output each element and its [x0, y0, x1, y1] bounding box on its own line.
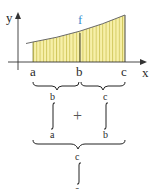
brace-a-b	[33, 82, 79, 90]
point-c-label: c	[121, 64, 127, 79]
integral-combined-upper: c	[75, 151, 80, 162]
integral-right-lower: b	[103, 129, 108, 140]
plus-operator: +	[73, 107, 82, 124]
integral-left-lower: a	[50, 129, 55, 140]
y-axis-label: y	[6, 10, 13, 25]
point-b-label: b	[76, 64, 83, 79]
integral-left-icon	[51, 103, 55, 130]
brace-combined	[33, 140, 125, 149]
integral-left-upper: b	[50, 91, 55, 102]
y-axis-arrow-icon	[15, 12, 21, 19]
point-a-label: a	[30, 64, 36, 79]
integral-right-icon	[104, 103, 108, 130]
integral-combined-lower: a	[75, 184, 80, 189]
additivity-diagram: y x f a b c b a + c b c a	[0, 0, 153, 189]
integral-right-upper: c	[103, 91, 108, 102]
function-label: f	[78, 12, 83, 27]
integral-combined-icon	[77, 163, 81, 185]
x-axis-label: x	[142, 65, 149, 80]
brace-b-c	[81, 82, 125, 90]
